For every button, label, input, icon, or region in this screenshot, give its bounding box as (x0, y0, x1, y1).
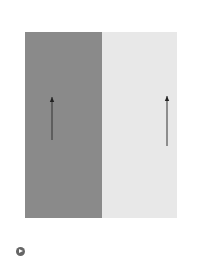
figure-caption (16, 247, 46, 256)
play-icon (16, 247, 25, 256)
water-phase-region (102, 32, 177, 218)
membrane-mixer-diagram (0, 0, 211, 269)
oil-phase-region (25, 32, 102, 218)
